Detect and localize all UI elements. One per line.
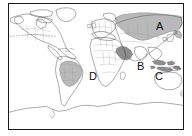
coast-central-america [49,45,63,60]
coast-north-america [15,14,76,59]
coast-antarctic-peninsula [50,109,55,118]
coast-korea [163,37,166,41]
region-label-a: A [156,21,163,32]
coast-mediterranean [92,32,116,41]
highlight-russia-far-east [174,31,182,39]
coast-new-zealand [180,91,182,97]
region-label-c: C [155,71,163,82]
map-frame: A B C D [8,3,184,130]
coast-indochina [148,47,162,60]
coast-alaska [11,16,24,24]
region-label-d: D [89,71,97,82]
coast-india [135,46,148,61]
coast-scandinavia [104,13,116,22]
highlight-brazil [59,61,82,87]
world-map-figure: A B C D [0,0,192,136]
coast-greenland [56,8,76,22]
coast-madagascar [121,72,126,80]
coast-antarctica [9,102,183,112]
highlight-russia [116,13,182,41]
coast-arctic-islands [31,10,53,17]
region-label-b: B [137,61,144,72]
coast-arctic-islands-2 [38,18,53,23]
